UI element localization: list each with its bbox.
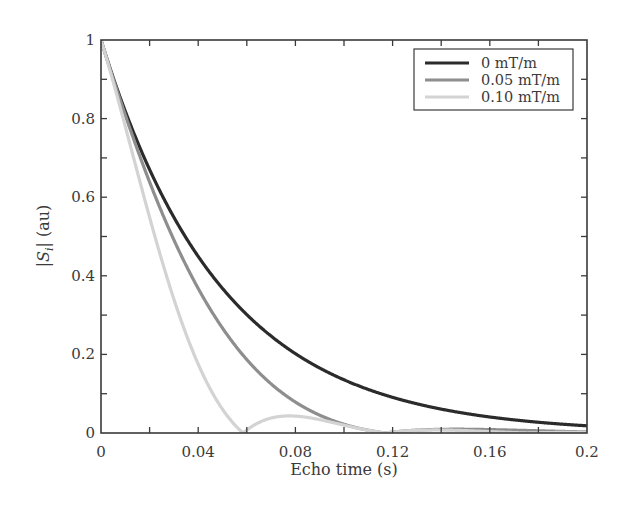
y-tick-label: 0.8 [71,110,95,128]
y-tick-label: 0.4 [71,267,95,285]
legend-label: 0.10 mT/m [481,89,560,105]
x-tick-label: 0.08 [279,443,312,461]
x-tick-label: 0 [96,443,106,461]
x-axis-label: Echo time (s) [290,460,398,479]
legend-label: 0.05 mT/m [481,72,560,88]
x-tick-label: 0.12 [376,443,409,461]
y-tick-label: 0 [85,424,95,442]
y-tick-label: 0.6 [71,188,95,206]
x-tick-label: 0.16 [473,443,506,461]
x-tick-label: 0.2 [575,443,599,461]
y-tick-label: 0.2 [71,345,95,363]
line-chart: 00.040.080.120.160.2 00.20.40.60.81 Echo… [0,0,621,509]
legend-label: 0 mT/m [481,55,537,71]
y-tick-label: 1 [85,31,95,49]
y-axis-label: |Si| (au) [34,205,56,268]
x-tick-label: 0.04 [181,443,214,461]
legend: 0 mT/m0.05 mT/m0.10 mT/m [414,49,573,110]
